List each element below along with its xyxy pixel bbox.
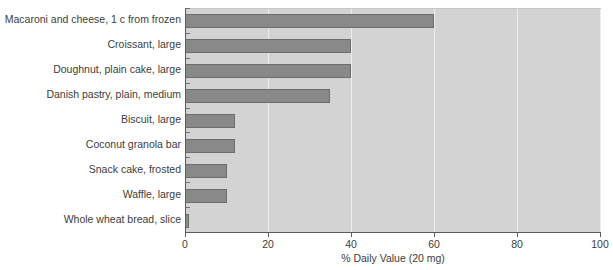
gridline	[600, 9, 601, 233]
x-tick-label: 0	[165, 238, 205, 250]
category-tick	[186, 157, 190, 158]
x-tick-mark	[517, 233, 518, 237]
bar	[185, 189, 227, 203]
x-axis-title: % Daily Value (20 mg)	[185, 252, 601, 265]
x-tick-label: 40	[331, 238, 371, 250]
bar	[185, 64, 351, 78]
category-tick	[186, 58, 190, 59]
category-label: Coconut granola bar	[0, 139, 181, 150]
gridline	[351, 9, 352, 233]
bar	[185, 114, 235, 128]
gridline	[434, 9, 435, 233]
category-label: Macaroni and cheese, 1 c from frozen	[0, 14, 181, 25]
bar	[185, 39, 351, 53]
category-label: Snack cake, frosted	[0, 164, 181, 175]
x-tick-label: 20	[248, 238, 288, 250]
category-tick	[186, 207, 190, 208]
gridline	[517, 9, 518, 233]
plot-area	[185, 8, 601, 233]
x-tick-mark	[185, 233, 186, 237]
x-tick-mark	[351, 233, 352, 237]
bar	[185, 164, 227, 178]
category-tick	[186, 8, 190, 9]
category-tick	[186, 132, 190, 133]
category-tick	[186, 108, 190, 109]
category-tick	[186, 182, 190, 183]
chart-title	[185, 0, 601, 6]
bar	[185, 14, 434, 28]
bar	[185, 89, 330, 103]
category-axis: Macaroni and cheese, 1 c from frozenCroi…	[0, 8, 183, 232]
category-label: Croissant, large	[0, 39, 181, 50]
category-label: Biscuit, large	[0, 114, 181, 125]
x-tick-label: 80	[497, 238, 537, 250]
category-tick	[186, 33, 190, 34]
category-label: Doughnut, plain cake, large	[0, 64, 181, 75]
category-label: Waffle, large	[0, 189, 181, 200]
x-tick-label: 60	[414, 238, 454, 250]
x-tick-label: 100	[580, 238, 613, 250]
bar	[185, 139, 235, 153]
bar-chart: Macaroni and cheese, 1 c from frozenCroi…	[0, 0, 613, 270]
y-axis-line	[185, 8, 186, 233]
x-axis-line	[185, 232, 601, 233]
category-tick	[186, 83, 190, 84]
category-label: Whole wheat bread, slice	[0, 214, 181, 225]
category-label: Danish pastry, plain, medium	[0, 89, 181, 100]
x-tick-mark	[434, 233, 435, 237]
x-tick-mark	[600, 233, 601, 237]
x-tick-mark	[268, 233, 269, 237]
